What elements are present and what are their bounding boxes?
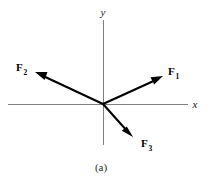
x-axis-label: x <box>192 98 198 110</box>
vector-f1-subscript: 1 <box>176 72 180 81</box>
y-axis-label: y <box>100 6 106 18</box>
force-vector-diagram: y x F 1 F 2 F 3 (a) <box>0 0 213 187</box>
vector-f1-label: F <box>168 65 175 77</box>
vector-f2-label: F <box>16 61 23 73</box>
vector-f3-shaft <box>103 104 128 132</box>
figure-caption: (a) <box>95 161 108 174</box>
vector-f2-arrowhead <box>35 72 48 80</box>
vector-f2-subscript: 2 <box>24 68 28 77</box>
vector-f3-label: F <box>141 137 148 149</box>
vector-f2 <box>35 72 103 104</box>
vector-f3-subscript: 3 <box>149 144 153 153</box>
vector-f1 <box>103 76 163 104</box>
vector-f1-arrowhead <box>151 76 164 85</box>
vector-f2-shaft <box>41 75 103 104</box>
diagram-canvas: y x F 1 F 2 F 3 (a) <box>0 0 213 187</box>
vector-f1-shaft <box>103 79 158 104</box>
axes-group <box>8 20 188 145</box>
vector-f3 <box>103 104 133 137</box>
